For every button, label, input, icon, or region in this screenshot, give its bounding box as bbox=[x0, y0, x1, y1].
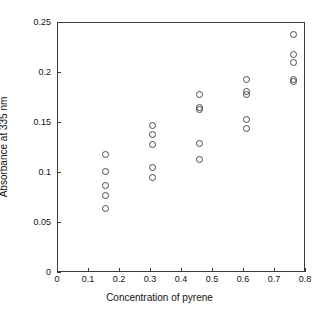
data-point-marker bbox=[290, 51, 297, 58]
data-point-marker bbox=[149, 122, 156, 129]
y-axis-tick bbox=[57, 222, 61, 223]
x-axis-tick-label: 0.6 bbox=[237, 274, 250, 284]
y-axis-tick bbox=[57, 122, 61, 123]
y-axis-tick bbox=[57, 172, 61, 173]
data-point-marker bbox=[149, 131, 156, 138]
x-axis-tick-label: 0.4 bbox=[175, 274, 188, 284]
x-axis-title: Concentration of pyrene bbox=[0, 292, 319, 303]
data-point-marker bbox=[149, 174, 156, 181]
scatter-plot-figure: 00.10.20.30.40.50.60.70.800.050.10.150.2… bbox=[0, 0, 319, 316]
x-axis-tick-label: 0.2 bbox=[113, 274, 126, 284]
data-point-marker bbox=[102, 151, 109, 158]
data-point-marker bbox=[102, 168, 109, 175]
x-axis-tick-label: 0.1 bbox=[82, 274, 95, 284]
y-axis-tick-label: 0.2 bbox=[0, 67, 51, 77]
x-axis-tick bbox=[150, 268, 151, 272]
x-axis-tick bbox=[305, 268, 306, 272]
y-axis-title: Absorbance at 335 nm bbox=[0, 97, 9, 198]
data-point-marker bbox=[102, 205, 109, 212]
plot-area bbox=[57, 22, 305, 272]
x-axis-tick bbox=[243, 268, 244, 272]
y-axis-tick bbox=[57, 22, 61, 23]
data-point-marker bbox=[290, 31, 297, 38]
x-axis-tick-label: 0 bbox=[54, 274, 59, 284]
data-point-marker bbox=[196, 156, 203, 163]
data-point-marker bbox=[196, 91, 203, 98]
x-axis-tick-label: 0.8 bbox=[299, 274, 312, 284]
y-axis-tick bbox=[57, 72, 61, 73]
x-axis-tick bbox=[181, 268, 182, 272]
data-point-marker bbox=[102, 192, 109, 199]
y-axis-tick-label: 0 bbox=[0, 267, 51, 277]
x-axis-tick-label: 0.7 bbox=[268, 274, 281, 284]
data-point-marker bbox=[196, 140, 203, 147]
data-point-marker bbox=[102, 182, 109, 189]
x-axis-tick bbox=[88, 268, 89, 272]
y-axis-tick bbox=[57, 272, 61, 273]
x-axis-tick bbox=[212, 268, 213, 272]
data-point-marker bbox=[196, 106, 203, 113]
y-axis-tick-label: 0.05 bbox=[0, 217, 51, 227]
y-axis-tick-label: 0.25 bbox=[0, 17, 51, 27]
x-axis-tick bbox=[274, 268, 275, 272]
data-point-marker bbox=[290, 59, 297, 66]
x-axis-tick-label: 0.3 bbox=[144, 274, 157, 284]
x-axis-tick-label: 0.5 bbox=[206, 274, 219, 284]
data-point-marker bbox=[149, 164, 156, 171]
data-point-marker bbox=[290, 78, 297, 85]
x-axis-tick bbox=[119, 268, 120, 272]
data-point-marker bbox=[149, 141, 156, 148]
